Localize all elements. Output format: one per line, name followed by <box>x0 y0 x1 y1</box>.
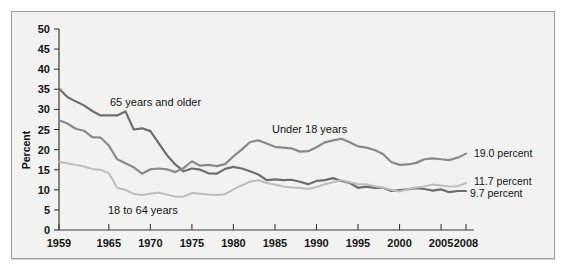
line-chart-svg: 05101520253035404550 1959196519701975198… <box>0 0 566 271</box>
x-tick-label: 1995 <box>346 237 370 249</box>
end-label-65plus: 9.7 percent <box>470 187 523 199</box>
chart-page: 05101520253035404550 1959196519701975198… <box>0 0 566 271</box>
x-tick-label: 1990 <box>304 237 328 249</box>
y-tick-label: 15 <box>38 164 50 176</box>
x-tick-label: 2000 <box>387 237 411 249</box>
y-tick-label: 30 <box>38 103 50 115</box>
x-tick-label: 2008 <box>454 237 478 249</box>
series-label-65plus: 65 years and older <box>110 96 201 108</box>
x-tick-label: 1975 <box>180 237 204 249</box>
y-tick-label: 5 <box>44 204 50 216</box>
series-line-18-to-64-years <box>59 162 466 197</box>
x-tick-label: 1985 <box>263 237 287 249</box>
end-label-under18: 19.0 percent <box>474 147 532 159</box>
y-axis-ticks: 05101520253035404550 <box>38 23 59 236</box>
series-line-under-18-years <box>59 120 466 173</box>
y-tick-label: 40 <box>38 63 50 75</box>
y-tick-label: 20 <box>38 144 50 156</box>
y-tick-label: 45 <box>38 43 50 55</box>
x-tick-label: 1965 <box>97 237 121 249</box>
y-tick-label: 10 <box>38 184 50 196</box>
x-tick-label: 1959 <box>47 237 71 249</box>
series-label-18to64: 18 to 64 years <box>108 204 178 216</box>
series-label-under18: Under 18 years <box>272 123 348 135</box>
y-tick-label: 0 <box>44 224 50 236</box>
y-axis-title: Percent <box>20 130 32 169</box>
y-tick-label: 25 <box>38 124 50 136</box>
x-axis-ticks: 1959196519701975198019851990199520002005… <box>47 224 478 249</box>
x-tick-label: 2005 <box>429 237 453 249</box>
x-tick-label: 1970 <box>138 237 162 249</box>
x-tick-label: 1980 <box>221 237 245 249</box>
chart-plot-area: 05101520253035404550 1959196519701975198… <box>0 0 566 271</box>
end-label-18to64: 11.7 percent <box>474 175 532 187</box>
y-tick-label: 35 <box>38 83 50 95</box>
y-tick-label: 50 <box>38 23 50 35</box>
